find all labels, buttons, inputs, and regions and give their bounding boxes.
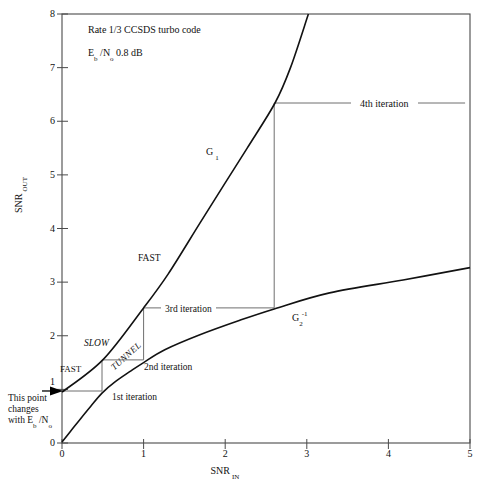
turbo-decoder-convergence-chart: Rate 1/3 CCSDS turbo code Eb /No 0.8 dB … — [0, 0, 481, 490]
iteration-label-3rd: 3rd iteration — [161, 304, 216, 314]
y-tick-label: 0 — [37, 437, 55, 448]
y-tick-label: 4 — [37, 223, 55, 234]
iteration-label-1st: 1st iteration — [112, 392, 157, 402]
region-label-slow: SLOW — [84, 338, 109, 348]
g1-curve-label: G 1 — [206, 146, 219, 160]
start-point-note-line1: This point — [8, 393, 52, 404]
g2-inverse-curve-label: G2-1 — [292, 311, 308, 326]
x-axis-label: SNR IN — [195, 465, 255, 479]
decoder-trajectory — [62, 103, 465, 391]
plot-canvas — [0, 0, 481, 490]
y-axis-label: SNR OUT — [13, 150, 27, 240]
y-tick-label: 7 — [37, 62, 55, 73]
x-tick-label: 0 — [57, 448, 67, 459]
y-tick-label: 8 — [37, 8, 55, 19]
y-tick-label: 1 — [37, 376, 55, 387]
start-point-note: This point changes with Eb /No — [8, 393, 52, 430]
x-tick-label: 5 — [465, 448, 475, 459]
y-tick-label: 2 — [37, 330, 55, 341]
x-tick-label: 2 — [220, 448, 230, 459]
y-tick-label: 5 — [37, 169, 55, 180]
x-tick-label: 3 — [302, 448, 312, 459]
x-tick-label: 4 — [383, 448, 393, 459]
y-tick-label: 6 — [37, 115, 55, 126]
chart-title: Rate 1/3 CCSDS turbo code — [88, 24, 201, 35]
x-tick-label: 1 — [139, 448, 149, 459]
region-label-fast-upper: FAST — [138, 253, 161, 263]
y-tick-label: 3 — [37, 276, 55, 287]
iteration-label-2nd: 2nd iteration — [144, 362, 192, 372]
start-point-note-line3: with Eb /No — [8, 415, 52, 430]
g1-curve — [62, 14, 308, 392]
ebno-annotation: Eb /No 0.8 dB — [88, 47, 143, 61]
region-label-fast-lower: FAST — [60, 364, 81, 374]
start-point-note-line2: changes — [8, 404, 52, 415]
iteration-label-4th: 4th iteration — [351, 98, 418, 109]
axes-frame — [62, 14, 470, 443]
